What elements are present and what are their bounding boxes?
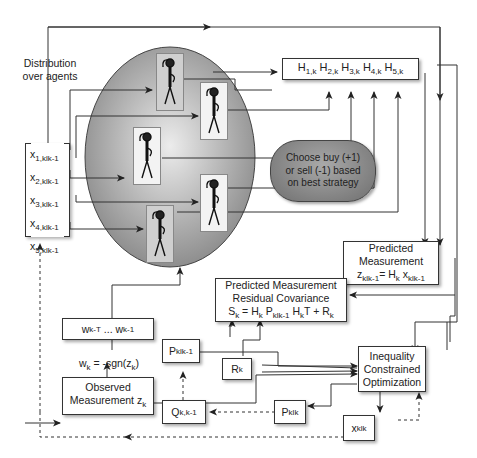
choose-line-1: Choose buy (+1): [271, 152, 375, 165]
observed-measurement-box: Observed Measurement zk: [62, 377, 154, 415]
opt-line-2: Constrained: [364, 363, 421, 376]
pm-line-1: Predicted: [369, 242, 413, 255]
h-item-3: H3,k: [341, 61, 360, 78]
residual-covariance-box: Predicted Measurement Residual Covarianc…: [215, 278, 347, 322]
p-prior-box: Pklk-1: [162, 339, 200, 363]
predicted-measurement-box: Predicted Measurement zklk-1= Hk xklk-1: [343, 241, 439, 285]
rc-line-2: Residual Covariance: [233, 292, 330, 305]
obs-line-1: Observed: [85, 381, 131, 394]
state-item-5: x5,klk-1: [30, 237, 70, 260]
rc-formula: Sk = Hk Pklk-1 HkT + Rk: [228, 305, 334, 322]
thinking-person-icon: [146, 205, 174, 263]
h-item-2: H2,k: [320, 61, 339, 78]
weight-rule-label: wk = -sgn(zk): [74, 357, 144, 374]
pm-formula: zklk-1= Hk xklk-1: [357, 268, 425, 285]
h-item-1: H1,k: [298, 61, 317, 78]
obs-line-2: Measurement zk: [70, 394, 146, 411]
h-vector-box: H1,k H2,k H3,k H4,k H5,k: [282, 58, 419, 80]
p-post-box: Pklk: [274, 400, 306, 424]
choose-strategy-box: Choose buy (+1) or sell (-1) based on be…: [270, 140, 376, 202]
x-post-box: xklk: [343, 415, 375, 441]
opt-line-1: Inequality: [370, 350, 415, 363]
state-item-4: x4,klk-1: [30, 214, 70, 237]
thinking-person-icon: [156, 53, 184, 111]
distribution-line-1: Distribution: [20, 57, 80, 70]
choose-line-3: on best strategy: [271, 177, 375, 190]
opt-line-3: Optimization: [363, 376, 421, 389]
thinking-person-icon: [200, 82, 228, 140]
weights-history-box: wk-T ... wk-1: [62, 318, 154, 340]
distribution-label: Distribution over agents: [20, 57, 80, 83]
thinking-person-icon: [133, 127, 161, 185]
q-box: Qk,k-1: [162, 400, 206, 424]
state-item-2: x2,klk-1: [30, 168, 70, 191]
h-item-5: H5,k: [385, 61, 404, 78]
rc-line-1: Predicted Measurement: [225, 279, 336, 292]
pm-line-2: Measurement: [359, 255, 423, 268]
h-item-4: H4,k: [363, 61, 382, 78]
thinking-person-icon: [200, 174, 228, 232]
inequality-optimizer-box: Inequality Constrained Optimization: [358, 346, 426, 392]
state-item-1: x1,klk-1: [30, 145, 70, 168]
r-box: Rk: [222, 358, 252, 380]
state-vector-box: x1,klk-1 x2,klk-1 x3,klk-1 x4,klk-1 x5,k…: [25, 143, 70, 237]
state-item-3: x3,klk-1: [30, 191, 70, 214]
choose-line-2: or sell (-1) based: [271, 165, 375, 178]
distribution-line-2: over agents: [20, 70, 80, 83]
